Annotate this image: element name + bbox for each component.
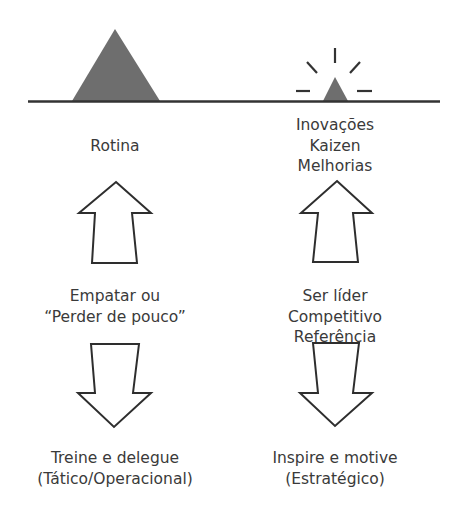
small-triangle-icon — [323, 77, 348, 101]
label-line: Inspire e motive — [235, 448, 435, 469]
diagram-canvas: Rotina Empatar ou “Perder de pouco” Trei… — [0, 0, 470, 522]
label-line: (Estratégico) — [235, 469, 435, 490]
label-line: Treine e delegue — [15, 448, 215, 469]
label-line: (Tático/Operacional) — [15, 469, 215, 490]
inspire-motivate-label: Inspire e motive (Estratégico) — [235, 448, 435, 489]
label-line: “Perder de pouco” — [15, 307, 215, 328]
label-line: Kaizen — [235, 136, 435, 157]
diagram-shapes — [0, 0, 470, 522]
large-triangle-icon — [72, 29, 160, 101]
arrow-up-icon — [79, 182, 151, 263]
label-line: Rotina — [15, 136, 215, 157]
train-delegate-label: Treine e delegue (Tático/Operacional) — [15, 448, 215, 489]
innovation-label: Inovações Kaizen Melhorias — [235, 115, 435, 177]
label-line: Ser líder — [235, 286, 435, 307]
label-line: Referência — [235, 327, 435, 348]
label-line: Empatar ou — [15, 286, 215, 307]
arrow-down-icon — [300, 343, 372, 426]
arrow-down-icon — [78, 344, 151, 427]
routine-label: Rotina — [15, 136, 215, 157]
arrow-up-icon — [301, 181, 372, 262]
label-line: Inovações — [235, 115, 435, 136]
label-line: Melhorias — [235, 156, 435, 177]
tie-label: Empatar ou “Perder de pouco” — [15, 286, 215, 327]
leader-label: Ser líder Competitivo Referência — [235, 286, 435, 348]
label-line: Competitivo — [235, 307, 435, 328]
